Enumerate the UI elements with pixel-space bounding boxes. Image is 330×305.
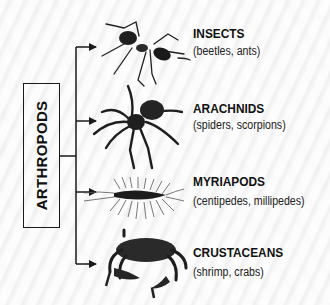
spider-icon	[88, 82, 183, 172]
branch-title-crustaceans: CRUSTACEANS	[193, 245, 283, 260]
crab-icon	[96, 228, 188, 300]
centipede-icon	[84, 175, 184, 220]
branch-examples-crustaceans: (shrimp, crabs)	[193, 265, 264, 279]
branch-title-insects: INSECTS	[193, 26, 244, 41]
arthropods-diagram: ARTHROPODS	[0, 0, 330, 305]
branch-examples-arachnids: (spiders, scorpions)	[193, 118, 286, 132]
ant-icon	[94, 14, 194, 89]
root-category-box: ARTHROPODS	[23, 83, 60, 228]
branch-examples-insects: (beetles, ants)	[193, 44, 260, 58]
branch-title-arachnids: ARACHNIDS	[193, 101, 264, 116]
branch-title-myriapods: MYRIAPODS	[193, 174, 265, 189]
root-category-label: ARTHROPODS	[33, 101, 50, 211]
branch-examples-myriapods: (centipedes, millipedes)	[193, 194, 305, 208]
